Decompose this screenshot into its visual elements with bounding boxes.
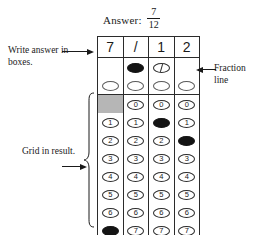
digit-cell[interactable]: 1 [123, 113, 149, 131]
digit-bubble[interactable]: 6 [127, 208, 144, 218]
digit-cell[interactable]: 3 [98, 149, 124, 167]
digit-cell[interactable]: 6 [174, 203, 200, 221]
digit-bubble[interactable]: 2 [102, 136, 119, 146]
digit-cell[interactable]: 2 [123, 131, 149, 149]
digit-bubble-filled[interactable]: 7 [102, 226, 119, 235]
answer-box-cell[interactable]: 1 [149, 37, 175, 58]
digit-cell[interactable]: 6 [98, 203, 124, 221]
answer-label: Answer: [103, 14, 142, 26]
digit-cell[interactable]: 3 [123, 149, 149, 167]
fraction-line-cell[interactable] [123, 58, 149, 77]
annotation-grid-in-result: Grid in result. [22, 145, 80, 157]
digit-bubble[interactable]: 6 [102, 208, 119, 218]
digit-cell[interactable]: 4 [174, 167, 200, 185]
digit-cell[interactable]: 7 [149, 221, 175, 235]
digit-bubble[interactable]: 7 [153, 226, 170, 235]
digit-row[interactable]: 000 [98, 95, 200, 114]
arrow-head [196, 67, 203, 73]
arrow-to-grid-rows-icon [62, 163, 88, 170]
decimal-point-bubble[interactable] [127, 81, 144, 91]
answer-boxes-row[interactable]: 7 / 1 2 [98, 37, 200, 58]
digit-bubble[interactable]: 0 [153, 100, 170, 110]
digit-cell[interactable]: 1 [174, 113, 200, 131]
digit-bubble[interactable]: 6 [178, 208, 195, 218]
digit-bubble[interactable]: 7 [178, 226, 195, 235]
digit-cell[interactable]: 5 [174, 185, 200, 203]
digit-row[interactable]: 6666 [98, 203, 200, 221]
digit-cell[interactable]: 5 [123, 185, 149, 203]
digit-bubble[interactable]: 6 [153, 208, 170, 218]
digit-bubble[interactable]: 4 [153, 172, 170, 182]
grid-in-answer-table[interactable]: 7 / 1 2 [97, 36, 200, 235]
digit-cell[interactable]: 6 [149, 203, 175, 221]
fraction-line-bubble-slash[interactable] [153, 63, 170, 73]
digit-cell[interactable]: 5 [98, 185, 124, 203]
fraction-line-bubble-filled[interactable] [127, 63, 144, 73]
digit-cell[interactable]: 2 [174, 131, 200, 149]
digit-bubble[interactable]: 3 [102, 154, 119, 164]
digit-row[interactable]: 7777 [98, 221, 200, 235]
digit-cell[interactable]: 7 [123, 221, 149, 235]
digit-cell[interactable]: 0 [123, 95, 149, 114]
answer-box-cell[interactable]: 7 [98, 37, 124, 58]
digit-bubble[interactable]: 5 [153, 190, 170, 200]
digit-bubble[interactable]: 4 [127, 172, 144, 182]
digit-cell[interactable]: 2 [98, 131, 124, 149]
digit-bubble-filled[interactable]: 1 [153, 118, 170, 128]
answer-box-cell[interactable]: 2 [174, 37, 200, 58]
digit-bubble[interactable]: 3 [153, 154, 170, 164]
digit-row[interactable]: 3333 [98, 149, 200, 167]
digit-bubble[interactable]: 1 [178, 118, 195, 128]
digit-bubble[interactable]: 5 [102, 190, 119, 200]
decimal-point-row[interactable] [98, 76, 200, 95]
decimal-point-cell[interactable] [149, 76, 175, 95]
digit-cell[interactable]: 7 [98, 221, 124, 235]
digit-bubble[interactable]: 4 [178, 172, 195, 182]
digit-cell[interactable]: 3 [174, 149, 200, 167]
digit-bubble[interactable]: 3 [127, 154, 144, 164]
digit-cell[interactable]: 3 [149, 149, 175, 167]
decimal-point-cell[interactable] [98, 76, 124, 95]
decimal-point-cell[interactable] [123, 76, 149, 95]
digit-cell[interactable]: 1 [98, 113, 124, 131]
digit-bubble[interactable]: 3 [178, 154, 195, 164]
decimal-point-cell[interactable] [174, 76, 200, 95]
decimal-point-bubble[interactable] [153, 81, 170, 91]
digit-cell[interactable]: 1 [149, 113, 175, 131]
fraction-denominator: 12 [147, 19, 161, 30]
digit-cell[interactable]: 5 [149, 185, 175, 203]
digit-cell[interactable]: 0 [174, 95, 200, 114]
digit-row[interactable]: 4444 [98, 167, 200, 185]
digit-bubble[interactable]: 2 [127, 136, 144, 146]
fraction-line-cell[interactable] [149, 58, 175, 77]
fraction-line-cell[interactable] [98, 58, 124, 77]
digit-row[interactable]: 5555 [98, 185, 200, 203]
digit-bubble[interactable]: 4 [102, 172, 119, 182]
digit-bubble[interactable]: 1 [127, 118, 144, 128]
annotation-fraction-line: Fraction line [214, 62, 257, 86]
digit-bubble[interactable]: 0 [127, 100, 144, 110]
answer-heading: Answer: 7 12 [103, 8, 161, 31]
digit-cell[interactable]: 0 [149, 95, 175, 114]
digit-cell[interactable]: 4 [123, 167, 149, 185]
digit-bubble[interactable]: 2 [153, 136, 170, 146]
decimal-point-bubble[interactable] [178, 81, 195, 91]
digit-bubble[interactable]: 1 [102, 118, 119, 128]
digit-cell-shaded-blank[interactable] [98, 95, 124, 114]
digit-row[interactable]: 1111 [98, 113, 200, 131]
digit-cell[interactable]: 4 [98, 167, 124, 185]
answer-box-cell[interactable]: / [123, 37, 149, 58]
decimal-point-bubble[interactable] [102, 81, 119, 91]
digit-bubble[interactable]: 5 [127, 190, 144, 200]
fraction-line-row[interactable] [98, 58, 200, 77]
digit-cell[interactable]: 4 [149, 167, 175, 185]
digit-bubble[interactable]: 0 [178, 100, 195, 110]
digit-bubble[interactable]: 7 [127, 226, 144, 235]
digit-bubble-filled[interactable]: 2 [178, 136, 195, 146]
digit-cell[interactable]: 2 [149, 131, 175, 149]
answer-fraction: 7 12 [147, 7, 161, 30]
digit-cell[interactable]: 7 [174, 221, 200, 235]
digit-cell[interactable]: 6 [123, 203, 149, 221]
digit-bubble[interactable]: 5 [178, 190, 195, 200]
digit-row[interactable]: 2222 [98, 131, 200, 149]
